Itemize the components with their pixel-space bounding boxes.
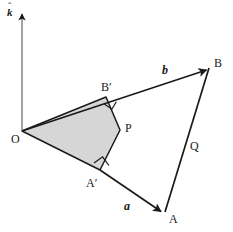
segment-Q-line (165, 68, 209, 212)
point-label-A: A (169, 213, 178, 225)
point-label-B-prime: B′ (101, 81, 112, 93)
vector-diagram-figure: ˆ k O A B A′ B′ P a b Q (0, 0, 233, 232)
hat-accent-icon: ˆ (8, 2, 11, 12)
k-hat-axis-label: ˆ k (7, 7, 13, 18)
diagram-canvas (0, 0, 233, 232)
shaded-quadrilateral (22, 97, 120, 170)
vector-label-b: b (162, 64, 168, 76)
vector-label-a: a (124, 200, 130, 212)
point-label-A-prime: A′ (86, 177, 97, 189)
point-label-O: O (11, 133, 20, 145)
vector-a-line (100, 170, 161, 212)
point-label-B: B (214, 57, 222, 69)
point-label-P: P (125, 122, 132, 134)
segment-label-Q: Q (190, 140, 199, 152)
